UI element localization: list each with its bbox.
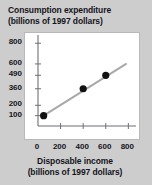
x-axis-tick-labels: 0200400600800	[0, 143, 152, 155]
data-point	[40, 112, 47, 119]
chart-figure: Consumption expenditure (billions of 199…	[0, 0, 152, 185]
y-axis-tick-label: 360	[9, 84, 22, 92]
y-axis-tick-label: 600	[9, 59, 22, 67]
data-point	[102, 72, 109, 79]
x-axis-caption: Disposable income (billions of 1997 doll…	[0, 156, 150, 177]
y-axis-tick-label: 800	[9, 38, 22, 46]
chart-title-line-1: Consumption expenditure	[8, 5, 148, 16]
y-axis-tick-label: 490	[9, 70, 22, 78]
x-axis-tick-label: 800	[121, 143, 134, 151]
chart-title: Consumption expenditure (billions of 199…	[8, 5, 148, 26]
data-point	[80, 85, 87, 92]
plot-panel	[24, 32, 140, 140]
x-axis-tick-label: 0	[35, 143, 39, 151]
x-axis-caption-line-1: Disposable income	[0, 156, 150, 167]
y-axis-tick-label: 200	[9, 100, 22, 108]
x-axis-tick-label: 600	[98, 143, 111, 151]
x-axis-caption-line-2: (billions of 1997 dollars)	[0, 167, 150, 178]
x-axis-tick-label: 200	[53, 143, 66, 151]
chart-title-line-2: (billions of 1997 dollars)	[8, 16, 148, 27]
plot-svg	[25, 33, 139, 139]
x-axis-tick-label: 400	[75, 143, 88, 151]
y-axis-tick-label: 100	[9, 111, 22, 119]
